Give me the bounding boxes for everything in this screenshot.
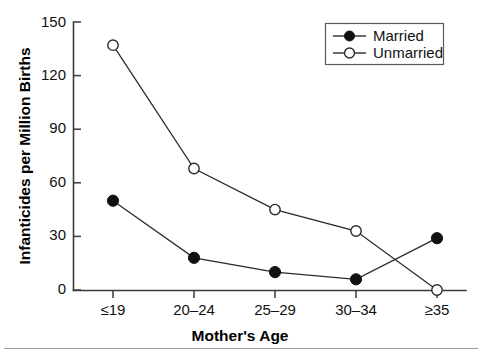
y-tick-label: 60 (49, 173, 66, 190)
legend-label-unmarried: Unmarried (373, 44, 443, 61)
series-unmarried (108, 40, 442, 295)
data-point (107, 195, 118, 206)
y-tick-label: 90 (49, 119, 66, 136)
legend-marker-married-icon (345, 31, 355, 41)
data-point (188, 252, 199, 263)
data-point (350, 274, 361, 285)
y-tick-label: 120 (41, 66, 66, 83)
chart-figure: 150 120 90 60 30 0 ≤19 20–24 25–29 30–34… (0, 0, 482, 360)
data-point (270, 204, 280, 214)
y-tick-label: 150 (41, 13, 66, 30)
x-tick-label: 25–29 (254, 301, 296, 318)
x-axis-ticks (113, 291, 437, 299)
x-tick-label: ≥35 (425, 301, 450, 318)
x-axis-title: Mother's Age (192, 327, 289, 344)
x-tick-label: ≤19 (101, 301, 126, 318)
data-point (108, 40, 118, 50)
line-chart: 150 120 90 60 30 0 ≤19 20–24 25–29 30–34… (0, 0, 482, 360)
y-axis-title: Infanticides per Million Births (16, 47, 33, 264)
data-point (432, 285, 442, 295)
data-point (431, 233, 442, 244)
x-tick-label: 20–24 (173, 301, 215, 318)
legend: Married Unmarried (326, 24, 444, 65)
x-tick-label: 30–34 (335, 301, 377, 318)
y-axis-ticks (74, 22, 82, 290)
data-point (351, 226, 361, 236)
data-point (269, 267, 280, 278)
legend-marker-unmarried-icon (345, 48, 355, 58)
legend-label-married: Married (373, 27, 424, 44)
series-line-unmarried (113, 45, 437, 290)
y-tick-label: 30 (49, 226, 66, 243)
data-point (189, 163, 199, 173)
y-tick-label: 0 (58, 280, 66, 297)
